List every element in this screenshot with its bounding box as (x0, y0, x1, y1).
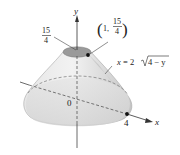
point-label-numerator: 15 (113, 17, 121, 26)
curve-label-lhs: x (116, 57, 121, 67)
x-axis-label: x (154, 117, 159, 127)
x-tick-label-4: 4 (124, 118, 129, 128)
solid-of-revolution-diagram: y x 0 4 15 4 ( 1, 15 4 ) x = 2 4 − y (0, 0, 180, 155)
top-height-denominator: 4 (44, 36, 48, 45)
point-label-close-paren: ) (122, 20, 128, 39)
point-x-4 (125, 112, 129, 116)
curve-label-radicand: 4 − y (148, 57, 166, 67)
top-height-numerator: 15 (42, 26, 50, 35)
point-label-denominator: 4 (115, 27, 119, 36)
base-region (26, 78, 130, 126)
x-axis-outer-left (20, 82, 29, 85)
y-axis-arrow-icon (75, 15, 79, 22)
point-1-15-4 (86, 53, 90, 57)
origin-label: 0 (67, 98, 72, 108)
y-axis-label: y (73, 6, 78, 16)
curve-label-eq: = 2 (123, 57, 134, 67)
leader-top-height (54, 37, 76, 50)
point-label-x: 1, (103, 24, 109, 33)
x-axis-arrow-icon (145, 118, 153, 123)
leader-point (90, 42, 108, 54)
